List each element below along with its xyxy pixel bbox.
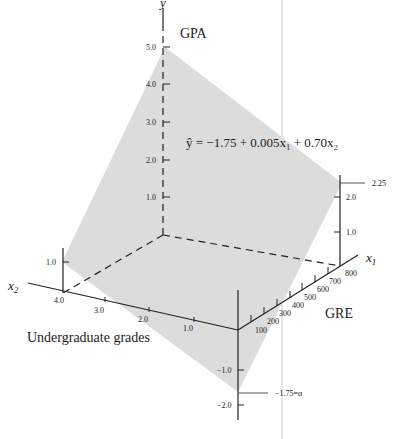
x2-tick-3: 3.0 <box>94 306 104 315</box>
x2-tick-1: 1.0 <box>183 324 193 333</box>
y-tick-2: 2.0 <box>146 156 156 165</box>
left-tick-1: 1.0 <box>46 258 56 267</box>
x2-tick-4: 4.0 <box>54 296 64 305</box>
x1-tick-300: 300 <box>279 309 291 318</box>
gpa-label: GPA <box>180 26 208 41</box>
x1-axis-name: GRE <box>325 306 353 321</box>
x1-tick-600: 600 <box>317 285 329 294</box>
x1-tick-200: 200 <box>267 317 279 326</box>
x2-axis-name: Undergraduate grades <box>27 330 150 345</box>
y-axis-label: y <box>158 0 166 10</box>
x1-tick-400: 400 <box>292 301 304 310</box>
y-tick-3: 3.0 <box>146 118 156 127</box>
right-top-label: 2.25 <box>372 179 386 188</box>
x2-tick-2: 2.0 <box>138 315 148 324</box>
x1-tick-800: 800 <box>345 269 357 278</box>
right-tick-1: 1.0 <box>346 228 356 237</box>
regression-plane-diagram: 1.0 2.0 3.0 4.0 5.0 y GPA ŷ = −1.75 + 0.… <box>0 0 403 439</box>
y-tick-4: 4.0 <box>146 80 156 89</box>
right-tick-2: 2.0 <box>346 193 356 202</box>
front-tick-neg2: −2.0 <box>217 401 232 410</box>
x2-axis-label: x2 <box>7 278 19 295</box>
x1-tick-500: 500 <box>304 293 316 302</box>
y-tick-5: 5.0 <box>146 43 156 52</box>
y-tick-1: 1.0 <box>146 193 156 202</box>
intercept-label: −1.75=α <box>275 389 303 398</box>
front-tick-neg1: −1.0 <box>217 366 232 375</box>
x1-axis-label: x1 <box>365 250 376 267</box>
right-vertical-ticks <box>334 197 340 232</box>
x1-tick-100: 100 <box>255 326 267 335</box>
x1-tick-700: 700 <box>329 277 341 286</box>
regression-equation: ŷ = −1.75 + 0.005x₁ + 0.70x₂ <box>186 135 338 150</box>
